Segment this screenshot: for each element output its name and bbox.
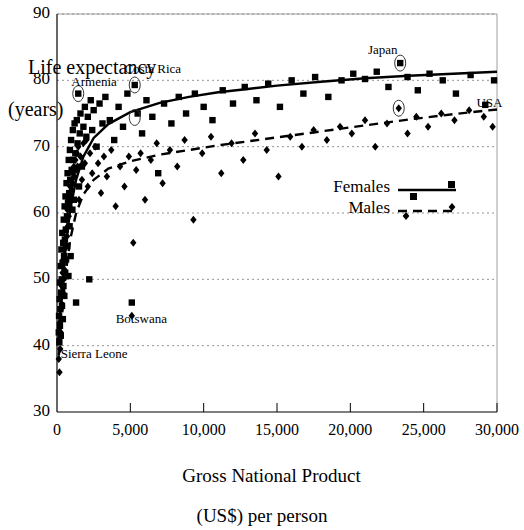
data-point-females bbox=[312, 74, 318, 80]
data-point-females bbox=[230, 100, 236, 106]
data-point-males bbox=[362, 116, 368, 124]
data-point-males bbox=[349, 129, 355, 137]
data-point-females bbox=[253, 97, 259, 103]
data-point-females bbox=[86, 276, 92, 282]
y-tick-label-60: 60 bbox=[16, 203, 50, 221]
annotation-label-japan: Japan bbox=[368, 43, 398, 57]
data-point-females bbox=[397, 60, 403, 66]
data-point-males bbox=[190, 216, 196, 224]
data-point-females bbox=[200, 104, 206, 110]
data-point-females bbox=[374, 69, 380, 75]
data-point-males bbox=[372, 143, 378, 151]
data-point-females bbox=[209, 117, 215, 123]
data-point-males bbox=[264, 146, 270, 154]
y-tick-label-80: 80 bbox=[16, 70, 50, 88]
y-tick-label-90: 90 bbox=[16, 4, 50, 22]
data-point-females bbox=[183, 110, 189, 116]
x-tick-label-10000: 10,000 bbox=[164, 422, 244, 439]
x-tick-label-15000: 15,000 bbox=[237, 422, 317, 439]
x-axis-title-line2: (US$) per person bbox=[0, 506, 524, 526]
data-point-females bbox=[288, 77, 294, 83]
data-point-females bbox=[453, 90, 459, 96]
data-point-females bbox=[277, 104, 283, 110]
data-point-males bbox=[240, 156, 246, 164]
data-point-males bbox=[174, 163, 180, 171]
data-point-males bbox=[142, 196, 148, 204]
data-point-females bbox=[300, 90, 306, 96]
annotation-label-usa: USA bbox=[476, 96, 502, 110]
annotation-label-armenia: Armenia bbox=[71, 75, 116, 89]
data-point-males bbox=[121, 182, 127, 190]
data-point-males bbox=[324, 136, 330, 144]
data-point-females bbox=[415, 87, 421, 93]
data-point-males bbox=[481, 113, 487, 121]
x-tick-label-5000: 5,000 bbox=[90, 422, 170, 439]
data-point-females bbox=[76, 183, 82, 189]
data-point-males bbox=[404, 129, 410, 137]
legend-marker-square bbox=[448, 181, 455, 188]
data-point-females bbox=[491, 77, 497, 83]
y-tick-label-50: 50 bbox=[16, 269, 50, 287]
data-point-males bbox=[489, 123, 495, 131]
x-tick-label-20000: 20,000 bbox=[310, 422, 390, 439]
legend-label-males: Males bbox=[280, 199, 390, 217]
data-point-males bbox=[199, 149, 205, 157]
data-point-males bbox=[438, 110, 444, 118]
data-point-females bbox=[350, 71, 356, 77]
data-point-females bbox=[440, 77, 446, 83]
data-point-males bbox=[425, 123, 431, 131]
data-point-males bbox=[181, 136, 187, 144]
annotation-label-botswana: Botswana bbox=[116, 312, 167, 326]
y-tick-label-40: 40 bbox=[16, 336, 50, 354]
x-tick-label-25000: 25,000 bbox=[384, 422, 464, 439]
data-point-males bbox=[159, 179, 165, 187]
y-tick-label-70: 70 bbox=[16, 137, 50, 155]
data-point-females bbox=[129, 299, 135, 305]
data-point-males bbox=[104, 173, 110, 181]
y-tick-label-30: 30 bbox=[16, 402, 50, 420]
legend-label-females: Females bbox=[280, 178, 390, 196]
y-axis-title-line2: (years) bbox=[8, 99, 156, 120]
data-point-males bbox=[218, 169, 224, 177]
data-point-males bbox=[299, 143, 305, 151]
data-point-males bbox=[252, 129, 258, 137]
data-point-males bbox=[130, 239, 136, 247]
x-axis-ticks bbox=[130, 403, 497, 412]
data-point-males bbox=[79, 176, 85, 184]
data-point-females bbox=[385, 84, 391, 90]
legend-glyphs bbox=[398, 181, 456, 220]
x-tick-label-0: 0 bbox=[17, 422, 97, 439]
x-axis-title-line1: Gross National Product bbox=[182, 465, 360, 486]
data-point-females bbox=[168, 120, 174, 126]
annotation-label-sierra-leone: Sierra Leone bbox=[61, 347, 128, 361]
data-point-males bbox=[208, 133, 214, 141]
x-tick-label-30000: 30,000 bbox=[457, 422, 524, 439]
data-point-males bbox=[112, 202, 118, 210]
x-axis-title: Gross National Product (US$) per person bbox=[0, 446, 524, 530]
data-point-females bbox=[325, 94, 331, 100]
annotation-label-costa-rica: Costa Rica bbox=[124, 62, 181, 76]
data-point-males bbox=[396, 104, 402, 112]
data-point-males bbox=[451, 116, 457, 124]
data-point-males bbox=[89, 169, 95, 177]
data-point-females bbox=[73, 299, 79, 305]
data-point-females bbox=[155, 170, 161, 176]
data-point-males bbox=[133, 166, 139, 174]
data-point-males bbox=[98, 189, 104, 197]
legend-marker-square-2 bbox=[410, 193, 417, 200]
